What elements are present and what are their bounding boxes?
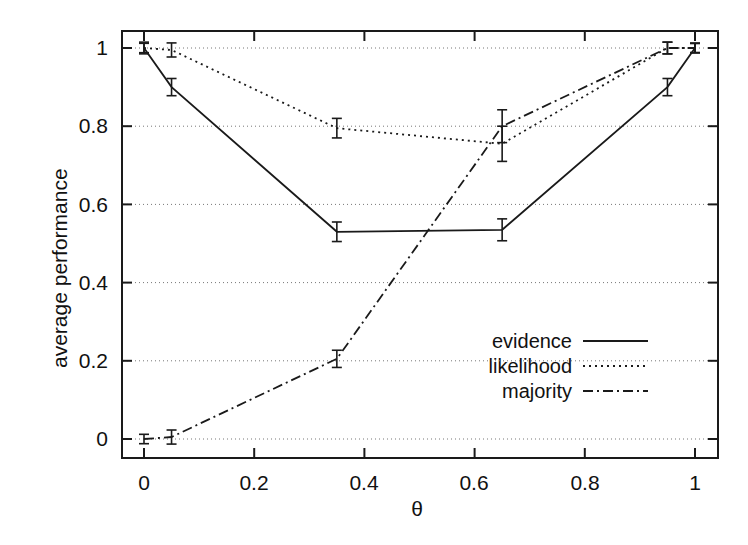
plot-area (0, 0, 748, 545)
plot-frame (122, 31, 718, 458)
series-majority (139, 42, 700, 444)
gridlines (123, 48, 717, 439)
error-bar (332, 118, 342, 138)
series-line-majority (144, 48, 695, 439)
legend-sample-lines (583, 341, 648, 391)
series-likelihood (139, 42, 700, 161)
error-bar (332, 350, 342, 367)
series-line-likelihood (144, 48, 695, 144)
chart-figure: average performance 1 0.8 0.6 0.4 0.2 0 … (0, 0, 748, 545)
axis-ticks (122, 31, 718, 458)
data-series-layer (139, 42, 700, 444)
